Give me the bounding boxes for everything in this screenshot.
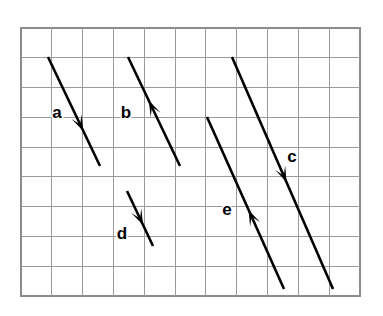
vector-label-c: c [287, 147, 296, 166]
vector-label-d: d [117, 224, 127, 243]
vector-label-e: e [222, 200, 231, 219]
vector-label-b: b [121, 103, 131, 122]
grid-group [21, 28, 360, 296]
grid-outer-border [21, 28, 360, 296]
vector-diagram-canvas: abcde [0, 0, 383, 316]
vector-label-a: a [52, 103, 62, 122]
vector-diagram-figure: abcde [0, 0, 383, 316]
